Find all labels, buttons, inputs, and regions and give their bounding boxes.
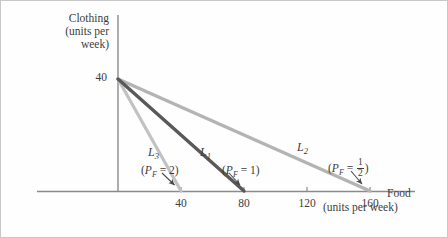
annotation-price-food-2: (PF = 2) bbox=[141, 164, 179, 179]
x-tick-label-40: 40 bbox=[161, 197, 201, 209]
curve-label-L3-letter: L bbox=[148, 145, 155, 159]
x-axis-title-units: (units per week) bbox=[323, 201, 398, 214]
y-axis-title-line1: Clothing bbox=[65, 12, 109, 25]
curve-label-L2-letter: L bbox=[297, 140, 304, 154]
pfhalf-numerator: 1 bbox=[357, 158, 364, 168]
pf2-p-symbol: P bbox=[145, 164, 152, 176]
pfhalf-denominator: 2 bbox=[357, 168, 364, 179]
curve-label-L1-sub: 1 bbox=[207, 151, 211, 161]
curve-label-L3: L3 bbox=[148, 145, 159, 161]
curve-label-L1-letter: L bbox=[200, 145, 207, 159]
x-tick-label-120: 120 bbox=[287, 197, 327, 209]
curve-label-L2: L2 bbox=[297, 140, 308, 156]
pfhalf-equals: = bbox=[344, 162, 356, 174]
annotation-price-food-half: (PF = 12) bbox=[328, 159, 369, 179]
pfhalf-p-symbol: P bbox=[332, 162, 339, 174]
pf1-value: = 1) bbox=[238, 164, 260, 176]
y-axis-title: Clothing (units per week) bbox=[65, 12, 109, 51]
curve-label-L3-sub: 3 bbox=[155, 151, 159, 161]
x-axis-title: Food bbox=[387, 187, 411, 200]
pf2-value: = 2) bbox=[157, 164, 179, 176]
y-axis-title-line3: week) bbox=[65, 38, 109, 51]
curve-label-L2-sub: 2 bbox=[304, 146, 308, 156]
pfhalf-close-paren: ) bbox=[365, 162, 369, 174]
y-axis-title-line2: (units per bbox=[65, 25, 109, 38]
x-tick-label-80: 80 bbox=[224, 197, 264, 209]
annotation-price-food-1: (PF = 1) bbox=[222, 164, 260, 179]
budget-line-figure: Clothing (units per week) 40 40 80 120 1… bbox=[0, 0, 448, 238]
pf1-p-symbol: P bbox=[226, 164, 233, 176]
pfhalf-fraction: 12 bbox=[357, 158, 364, 178]
curve-label-L1: L1 bbox=[200, 145, 211, 161]
y-tick-label-40: 40 bbox=[96, 71, 108, 83]
